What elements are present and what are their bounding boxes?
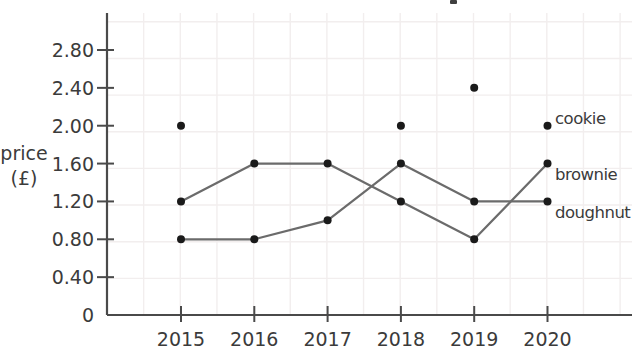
data-point-brownie-2020 bbox=[544, 160, 552, 168]
data-point-doughnut-2019 bbox=[470, 197, 478, 205]
x-tick-label-2019: 2019 bbox=[450, 328, 498, 350]
y-tick-label-0.40: 0.40 bbox=[52, 266, 94, 288]
data-point-brownie-2019 bbox=[470, 235, 478, 243]
y-axis-label-line1: price bbox=[0, 142, 47, 164]
y-tick-label-1.20: 1.20 bbox=[52, 190, 94, 212]
data-point-doughnut-2017 bbox=[324, 216, 332, 224]
x-tick-label-2017: 2017 bbox=[303, 328, 351, 350]
price-line-chart-svg: price (£) 2.802.402.001.601.200.800.4002… bbox=[0, 0, 632, 353]
text-layer: price (£) 2.802.402.001.601.200.800.4002… bbox=[0, 39, 631, 350]
data-point-cookie-2018 bbox=[397, 122, 405, 130]
data-point-doughnut-2015 bbox=[177, 235, 185, 243]
price-chart: price (£) 2.802.402.001.601.200.800.4002… bbox=[0, 0, 632, 353]
series-label-brownie: brownie bbox=[555, 165, 618, 184]
clipped-title-fragment bbox=[450, 0, 457, 4]
data-point-brownie-2015 bbox=[177, 197, 185, 205]
data-point-brownie-2016 bbox=[250, 160, 258, 168]
series-label-doughnut: doughnut bbox=[555, 203, 631, 222]
y-tick-label-0: 0 bbox=[82, 304, 94, 326]
data-point-cookie-2020 bbox=[544, 122, 552, 130]
y-axis-label-line2: (£) bbox=[11, 167, 38, 189]
data-point-brownie-2017 bbox=[324, 160, 332, 168]
x-tick-label-2016: 2016 bbox=[230, 328, 278, 350]
series-layer bbox=[177, 84, 552, 243]
grid-layer bbox=[107, 13, 632, 315]
data-point-doughnut-2020 bbox=[544, 197, 552, 205]
axes-layer bbox=[97, 13, 632, 322]
data-point-cookie-2019 bbox=[470, 84, 478, 92]
x-tick-label-2015: 2015 bbox=[157, 328, 205, 350]
data-point-doughnut-2018 bbox=[397, 160, 405, 168]
y-tick-label-1.60: 1.60 bbox=[52, 153, 94, 175]
series-line-doughnut bbox=[181, 164, 548, 240]
x-tick-label-2020: 2020 bbox=[523, 328, 571, 350]
data-point-brownie-2018 bbox=[397, 197, 405, 205]
data-point-cookie-2015 bbox=[177, 122, 185, 130]
series-label-cookie: cookie bbox=[555, 109, 606, 128]
y-tick-label-2.40: 2.40 bbox=[52, 77, 94, 99]
y-tick-label-2.80: 2.80 bbox=[52, 39, 94, 61]
x-tick-label-2018: 2018 bbox=[377, 328, 425, 350]
y-tick-label-2.00: 2.00 bbox=[52, 115, 94, 137]
data-point-doughnut-2016 bbox=[250, 235, 258, 243]
y-tick-label-0.80: 0.80 bbox=[52, 228, 94, 250]
